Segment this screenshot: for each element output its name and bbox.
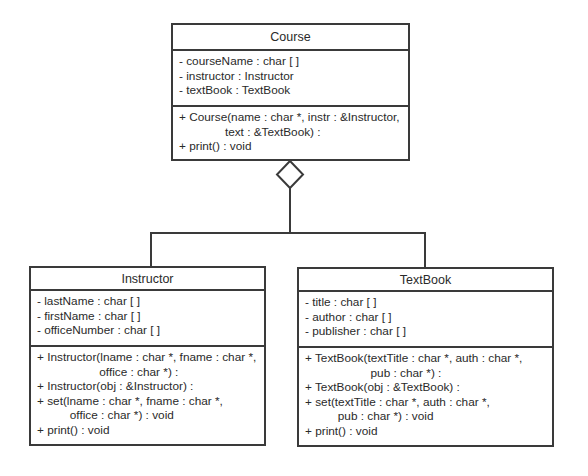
attribute: - instructor : Instructor [179,69,408,84]
attributes-section: - lastName : char [ ] - firstName : char… [31,291,264,347]
method: pub : char *) : void [305,409,552,424]
method: + print() : void [179,139,408,154]
method: pub : char *) : [305,366,552,381]
class-name: Course [173,25,408,51]
attribute: - firstName : char [ ] [37,309,264,324]
methods-section: + Course(name : char *, instr : &Instruc… [173,107,408,157]
method: + Instructor(lname : char *, fname : cha… [37,350,264,365]
method: office : char *) : void [37,408,264,423]
method: + Instructor(obj : &Instructor) : [37,379,264,394]
class-instructor: Instructor - lastName : char [ ] - first… [29,266,266,446]
method: + print() : void [305,424,552,439]
class-name: TextBook [299,269,552,292]
class-name: Instructor [31,268,264,291]
attribute: - courseName : char [ ] [179,54,408,69]
class-textbook: TextBook - title : char [ ] - author : c… [297,267,554,447]
attribute: - title : char [ ] [305,295,552,310]
attribute: - lastName : char [ ] [37,294,264,309]
method: + TextBook(textTitle : char *, auth : ch… [305,351,552,366]
method: + Course(name : char *, instr : &Instruc… [179,110,408,125]
method: office : char *) : [37,365,264,380]
attributes-section: - courseName : char [ ] - instructor : I… [173,51,408,107]
aggregation-diamond-icon [277,161,303,188]
method: text : &TextBook) : [179,125,408,140]
attributes-section: - title : char [ ] - author : char [ ] -… [299,292,552,348]
attribute: - officeNumber : char [ ] [37,323,264,338]
attribute: - textBook : TextBook [179,83,408,98]
methods-section: + TextBook(textTitle : char *, auth : ch… [299,348,552,442]
methods-section: + Instructor(lname : char *, fname : cha… [31,347,264,441]
attribute: - publisher : char [ ] [305,324,552,339]
attribute: - author : char [ ] [305,310,552,325]
method: + TextBook(obj : &TextBook) : [305,380,552,395]
class-course: Course - courseName : char [ ] - instruc… [171,23,410,161]
method: + set(textTitle : char *, auth : char *, [305,395,552,410]
method: + print() : void [37,423,264,438]
method: + set(lname : char *, fname : char *, [37,394,264,409]
